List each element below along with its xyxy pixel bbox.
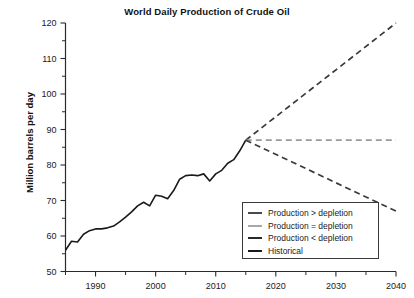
x-axis-ticks (66, 272, 397, 277)
legend-swatch-production-greater (248, 212, 262, 214)
legend-label-production-less: Production < depletion (268, 232, 353, 245)
svg-text:2010: 2010 (206, 281, 226, 291)
svg-text:80: 80 (46, 160, 56, 170)
svg-text:1990: 1990 (86, 281, 106, 291)
legend-swatch-historical (248, 250, 262, 252)
x-axis-tick-labels: 199020002010202020302040 (86, 281, 406, 291)
svg-text:2040: 2040 (386, 281, 406, 291)
legend-label-production-greater: Production > depletion (268, 207, 353, 220)
svg-text:2020: 2020 (266, 281, 286, 291)
legend-swatch-production-less (248, 237, 262, 239)
legend-item-production-equal: Production = depletion (248, 220, 378, 233)
svg-text:120: 120 (41, 18, 56, 28)
y-axis-ticks (61, 23, 66, 272)
legend-label-production-equal: Production = depletion (268, 220, 353, 233)
legend-item-historical: Historical (248, 245, 378, 258)
svg-text:2030: 2030 (326, 281, 346, 291)
legend-label-historical: Historical (268, 245, 303, 258)
legend-item-production-greater: Production > depletion (248, 207, 378, 220)
legend-item-production-less: Production < depletion (248, 232, 378, 245)
svg-text:100: 100 (41, 89, 56, 99)
legend-swatch-production-equal (248, 225, 262, 227)
svg-text:2000: 2000 (146, 281, 166, 291)
y-axis-tick-labels: 5060708090100110120 (41, 18, 56, 277)
svg-text:60: 60 (46, 231, 56, 241)
chart-legend: Production > depletion Production = depl… (242, 202, 379, 259)
svg-text:70: 70 (46, 196, 56, 206)
svg-text:50: 50 (46, 267, 56, 277)
chart-container: World Daily Production of Crude Oil Mill… (0, 0, 414, 298)
svg-text:90: 90 (46, 125, 56, 135)
svg-text:110: 110 (42, 54, 56, 64)
